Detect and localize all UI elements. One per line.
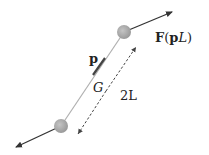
- force-label: F(pL): [155, 30, 192, 45]
- force-arrow-bottom: [16, 126, 61, 147]
- length-dimension-line-lower: [78, 91, 106, 134]
- length-label-text: 2L: [120, 88, 137, 103]
- force-arg-p: p: [169, 30, 178, 45]
- force-arg-L: L: [177, 30, 187, 45]
- force-paren-close: ): [187, 30, 192, 45]
- rigid-dumbbell-diagram: p G 2L F(pL): [0, 0, 209, 155]
- mass-top: [117, 25, 131, 39]
- mass-bottom: [54, 119, 68, 133]
- length-label: 2L: [120, 88, 137, 103]
- center-label: G: [93, 80, 103, 95]
- length-dimension-line: [106, 47, 136, 91]
- force-arrow-top: [124, 12, 172, 32]
- momentum-label: p: [89, 51, 98, 66]
